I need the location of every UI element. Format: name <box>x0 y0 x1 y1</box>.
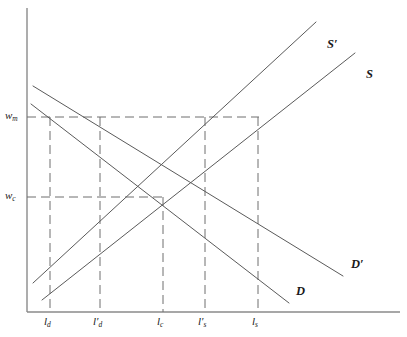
demand-curve <box>31 104 289 303</box>
supply-demand-figure: S′ S D′ D wm wc ld l′d lc l′s ls <box>0 0 407 337</box>
wage-label-w-c: wc <box>5 190 16 201</box>
prime-mark-demand-shifted: ′ <box>360 257 364 271</box>
plot-canvas <box>0 0 407 337</box>
quantity-subscript-l-s-prime: s <box>203 320 206 329</box>
supply-curve-shifted <box>33 22 316 283</box>
wage-subscript-c: c <box>12 194 15 203</box>
curve-label-demand-shifted: D′ <box>351 258 364 271</box>
quantity-label-l-s: ls <box>252 316 258 327</box>
demand-curve-shifted <box>33 86 343 276</box>
prime-mark-supply-shifted: ′ <box>334 37 338 51</box>
curve-label-supply-shifted: S′ <box>327 38 337 51</box>
quantity-label-l-s-prime: l′s <box>198 316 206 327</box>
quantity-label-l-c: lc <box>157 316 163 327</box>
curve-label-demand: D <box>296 285 305 298</box>
quantity-label-l-d-prime: l′d <box>93 316 102 327</box>
quantity-subscript-l-s: s <box>255 320 258 329</box>
curve-label-supply: S <box>366 68 373 81</box>
curves-group <box>31 22 355 303</box>
quantity-subscript-l-c: c <box>160 320 163 329</box>
wage-label-w-m: wm <box>5 110 18 121</box>
quantity-subscript-l-d-prime: d <box>98 320 102 329</box>
quantity-guides-group <box>50 117 258 312</box>
axes-group <box>27 8 400 312</box>
wage-guides-group <box>27 117 259 197</box>
quantity-label-l-d: ld <box>44 316 51 327</box>
wage-subscript-m: m <box>12 114 17 123</box>
quantity-subscript-l-d: d <box>47 320 51 329</box>
supply-curve <box>42 53 355 300</box>
